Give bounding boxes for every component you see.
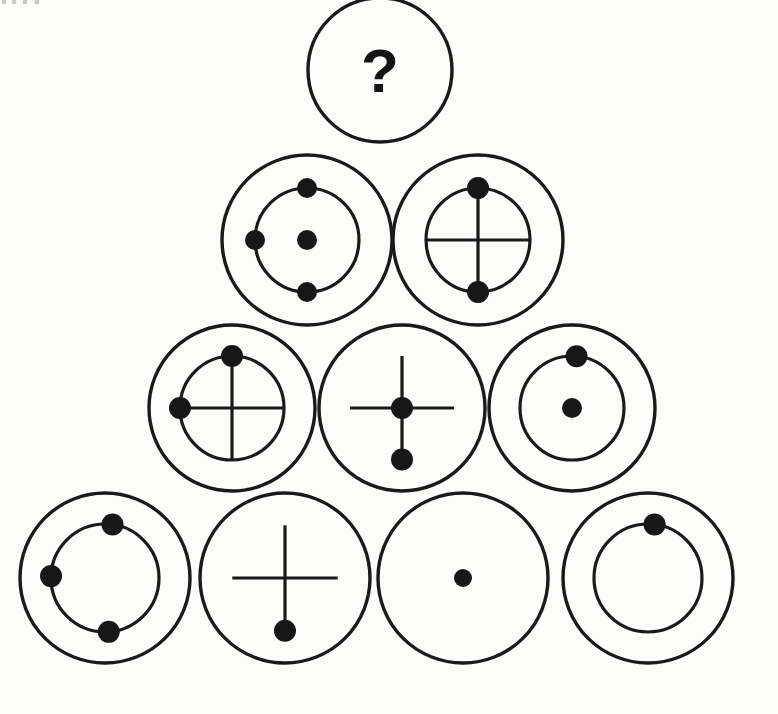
orbit-dot-left: [40, 565, 62, 587]
puzzle-cell-r4c1[interactable]: [20, 493, 190, 663]
puzzle-cell-r3c1[interactable]: [149, 325, 315, 491]
inner-circle: [594, 524, 702, 632]
orbit-dot-top: [566, 345, 588, 367]
orbit-dot-top: [297, 178, 317, 198]
center-dot: [391, 397, 413, 419]
orbit-dot-bottom: [297, 282, 317, 302]
pyramid-row-3: [149, 325, 655, 491]
question-mark: ?: [361, 36, 399, 105]
center-dot: [297, 230, 317, 250]
puzzle-cell-r4c3[interactable]: [378, 493, 548, 663]
puzzle-canvas: ?: [0, 0, 778, 714]
center-dot: [562, 398, 582, 418]
pyramid-diagram: ?: [0, 0, 778, 714]
puzzle-cell-r3c3[interactable]: [489, 325, 655, 491]
orbit-dot-bottom: [467, 281, 489, 303]
orbit-dot-left: [245, 230, 265, 250]
puzzle-cell-r3c2[interactable]: [319, 325, 485, 491]
center-dot: [454, 569, 472, 587]
orbit-dot-left: [169, 397, 191, 419]
puzzle-cell-r4c2[interactable]: [200, 493, 370, 663]
puzzle-cell-r1c1[interactable]: ?: [308, 0, 452, 142]
pyramid-row-4-base: [20, 493, 733, 663]
inner-circle: [51, 524, 159, 632]
pyramid-row-2: [222, 155, 563, 325]
orbit-dot-bottom: [274, 620, 296, 642]
puzzle-cell-r2c1[interactable]: [222, 155, 392, 325]
orbit-dot-bottom: [391, 448, 413, 470]
orbit-dot-top: [467, 177, 489, 199]
orbit-dot-top: [221, 345, 243, 367]
orbit-dot-bottom: [98, 621, 120, 643]
puzzle-cell-r4c4[interactable]: [563, 493, 733, 663]
orbit-dot-top: [102, 514, 124, 536]
orbit-dot-top: [644, 513, 666, 535]
pyramid-row-1-apex: ?: [308, 0, 452, 142]
puzzle-cell-r2c2[interactable]: [393, 155, 563, 325]
